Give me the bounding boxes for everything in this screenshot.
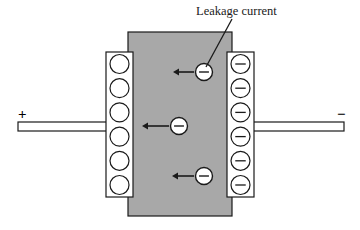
positive-plate-charge-circle xyxy=(110,151,129,170)
leakage-current-diagram: Leakage current + − xyxy=(0,0,360,230)
positive-plate-charge-circle xyxy=(110,103,129,122)
positive-plate-charge-circle xyxy=(110,55,129,74)
negative-lead-wire xyxy=(252,122,344,131)
leakage-current-label: Leakage current xyxy=(196,4,277,18)
positive-plate-charge-circle xyxy=(110,79,129,98)
negative-terminal-sign: − xyxy=(337,106,346,122)
positive-lead-wire xyxy=(18,122,108,131)
positive-plate-charge-circle xyxy=(110,127,129,146)
positive-plate-charge-circle xyxy=(110,176,129,195)
positive-terminal-sign: + xyxy=(18,106,27,122)
diagram-canvas: Leakage current + − xyxy=(0,0,360,230)
